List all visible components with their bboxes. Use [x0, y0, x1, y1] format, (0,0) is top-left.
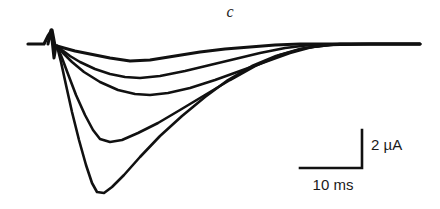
- current-trace: [57, 44, 420, 95]
- scale-bar: [300, 130, 362, 168]
- figure-panel-c: c 2 µA 10 ms: [0, 0, 440, 209]
- scale-bar-time-label: 10 ms: [300, 176, 366, 193]
- current-trace-plot: [0, 0, 440, 209]
- scale-bar-current-label: 2 µA: [371, 136, 402, 153]
- current-trace: [57, 44, 420, 193]
- scale-bar-lines: [300, 130, 362, 168]
